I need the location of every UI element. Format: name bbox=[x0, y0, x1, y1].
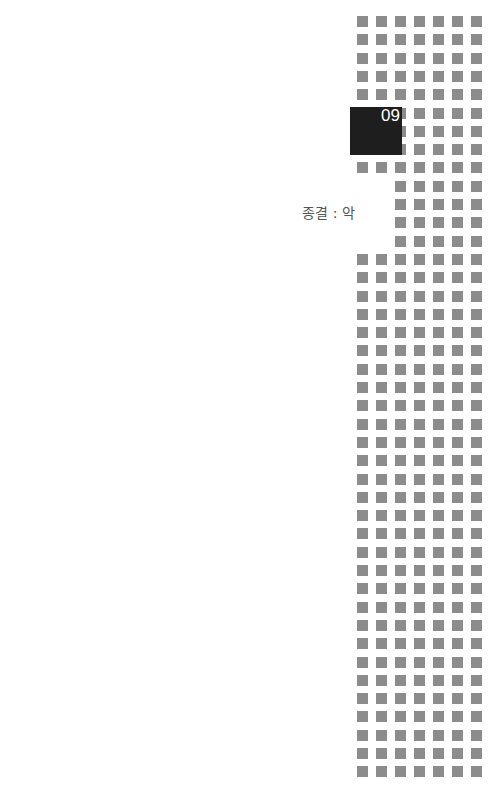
pattern-square bbox=[414, 437, 425, 448]
pattern-square bbox=[433, 217, 444, 228]
pattern-square bbox=[452, 583, 463, 594]
pattern-square bbox=[376, 345, 387, 356]
pattern-square bbox=[395, 272, 406, 283]
pattern-square bbox=[471, 144, 482, 155]
pattern-square bbox=[471, 602, 482, 613]
pattern-square bbox=[433, 16, 444, 27]
pattern-square bbox=[376, 748, 387, 759]
pattern-square bbox=[471, 400, 482, 411]
pattern-square bbox=[433, 382, 444, 393]
pattern-square bbox=[414, 748, 425, 759]
pattern-square bbox=[414, 108, 425, 119]
pattern-square bbox=[414, 327, 425, 338]
pattern-square bbox=[452, 419, 463, 430]
pattern-square bbox=[395, 419, 406, 430]
pattern-square bbox=[452, 34, 463, 45]
pattern-square bbox=[471, 711, 482, 722]
pattern-square bbox=[452, 108, 463, 119]
pattern-square bbox=[376, 327, 387, 338]
pattern-square bbox=[395, 71, 406, 82]
pattern-square bbox=[452, 217, 463, 228]
pattern-square bbox=[414, 492, 425, 503]
pattern-square bbox=[414, 474, 425, 485]
pattern-square bbox=[471, 474, 482, 485]
pattern-square bbox=[433, 510, 444, 521]
pattern-square bbox=[452, 309, 463, 320]
pattern-square bbox=[452, 291, 463, 302]
pattern-square bbox=[395, 766, 406, 777]
pattern-square bbox=[357, 620, 368, 631]
pattern-square bbox=[471, 327, 482, 338]
pattern-square bbox=[452, 455, 463, 466]
pattern-square bbox=[433, 272, 444, 283]
pattern-square bbox=[452, 620, 463, 631]
pattern-square bbox=[414, 254, 425, 265]
pattern-square bbox=[471, 675, 482, 686]
pattern-square bbox=[414, 272, 425, 283]
pattern-square bbox=[471, 89, 482, 100]
pattern-square bbox=[471, 766, 482, 777]
pattern-square bbox=[471, 657, 482, 668]
pattern-square bbox=[395, 730, 406, 741]
pattern-square bbox=[471, 53, 482, 64]
pattern-square bbox=[414, 547, 425, 558]
pattern-square bbox=[452, 254, 463, 265]
pattern-square bbox=[433, 181, 444, 192]
pattern-square bbox=[357, 693, 368, 704]
pattern-square bbox=[395, 711, 406, 722]
pattern-square bbox=[471, 583, 482, 594]
pattern-square bbox=[376, 71, 387, 82]
pattern-square bbox=[433, 291, 444, 302]
pattern-square bbox=[452, 547, 463, 558]
pattern-square bbox=[395, 199, 406, 210]
pattern-square bbox=[395, 345, 406, 356]
pattern-square bbox=[433, 583, 444, 594]
pattern-square bbox=[433, 437, 444, 448]
pattern-square bbox=[395, 291, 406, 302]
pattern-square bbox=[376, 766, 387, 777]
pattern-square bbox=[357, 291, 368, 302]
pattern-square bbox=[452, 345, 463, 356]
pattern-square bbox=[433, 730, 444, 741]
pattern-square bbox=[357, 89, 368, 100]
pattern-square bbox=[357, 455, 368, 466]
pattern-square bbox=[414, 455, 425, 466]
pattern-square bbox=[414, 71, 425, 82]
pattern-square bbox=[471, 638, 482, 649]
pattern-square bbox=[395, 162, 406, 173]
pattern-square bbox=[357, 272, 368, 283]
pattern-square bbox=[452, 16, 463, 27]
pattern-square bbox=[452, 162, 463, 173]
pattern-square bbox=[414, 620, 425, 631]
pattern-square bbox=[433, 254, 444, 265]
pattern-square bbox=[357, 657, 368, 668]
pattern-square bbox=[376, 528, 387, 539]
pattern-square bbox=[414, 528, 425, 539]
pattern-square bbox=[452, 528, 463, 539]
pattern-square bbox=[357, 327, 368, 338]
pattern-square bbox=[433, 748, 444, 759]
pattern-square bbox=[376, 419, 387, 430]
pattern-square bbox=[433, 53, 444, 64]
pattern-square bbox=[452, 327, 463, 338]
pattern-square bbox=[395, 748, 406, 759]
pattern-square bbox=[395, 565, 406, 576]
pattern-square bbox=[452, 199, 463, 210]
pattern-square bbox=[452, 510, 463, 521]
decorative-square-grid bbox=[0, 0, 489, 789]
pattern-square bbox=[433, 108, 444, 119]
pattern-square bbox=[414, 675, 425, 686]
pattern-square bbox=[376, 693, 387, 704]
pattern-square bbox=[395, 437, 406, 448]
pattern-square bbox=[376, 382, 387, 393]
pattern-square bbox=[414, 693, 425, 704]
pattern-square bbox=[376, 711, 387, 722]
pattern-square bbox=[395, 474, 406, 485]
pattern-square bbox=[414, 162, 425, 173]
pattern-square bbox=[357, 730, 368, 741]
pattern-square bbox=[395, 510, 406, 521]
pattern-square bbox=[357, 419, 368, 430]
pattern-square bbox=[452, 474, 463, 485]
pattern-square bbox=[357, 345, 368, 356]
pattern-square bbox=[414, 510, 425, 521]
